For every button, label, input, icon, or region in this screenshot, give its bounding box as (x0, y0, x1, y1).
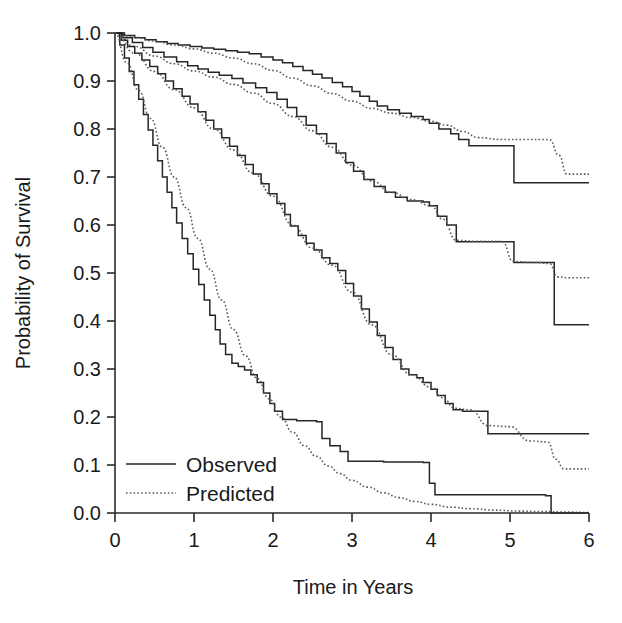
curve-group-2-predicted (115, 33, 589, 278)
y-tick-label-0.0: 0.0 (73, 502, 101, 524)
axes-layer (115, 33, 589, 513)
curve-group-1-predicted (115, 33, 589, 174)
y-tick-label-0.8: 0.8 (73, 118, 101, 140)
y-tick-label-0.4: 0.4 (73, 310, 101, 332)
legend-label-predicted: Predicted (186, 482, 275, 505)
x-tick-label-5: 5 (504, 529, 515, 551)
y-tick-label-1.0: 1.0 (73, 22, 101, 44)
x-tick-label-1: 1 (188, 529, 199, 551)
legend-label-observed: Observed (186, 453, 277, 476)
curves-layer (115, 33, 589, 513)
curve-group-2-observed (115, 33, 589, 325)
curve-group-3-observed (115, 33, 589, 434)
x-tick-label-0: 0 (109, 529, 120, 551)
y-tick-label-0.7: 0.7 (73, 166, 101, 188)
y-tick-label-0.6: 0.6 (73, 214, 101, 236)
y-tick-label-0.2: 0.2 (73, 406, 101, 428)
legend-layer: Observed Predicted (126, 453, 277, 505)
x-tick-label-3: 3 (346, 529, 357, 551)
curve-group-3-predicted (115, 33, 589, 469)
y-tick-label-0.9: 0.9 (73, 70, 101, 92)
y-axis-title: Probability of Survival (12, 177, 34, 369)
x-tick-label-4: 4 (425, 529, 436, 551)
curve-group-4-predicted (115, 33, 589, 513)
x-tick-label-2: 2 (267, 529, 278, 551)
x-tick-label-6: 6 (583, 529, 594, 551)
ticks-layer: 0.00.10.20.30.40.50.60.70.80.91.00123456 (73, 22, 594, 551)
y-tick-label-0.3: 0.3 (73, 358, 101, 380)
y-tick-label-0.5: 0.5 (73, 262, 101, 284)
x-axis-title: Time in Years (293, 576, 413, 598)
curve-group-4-observed (115, 33, 589, 513)
y-tick-label-0.1: 0.1 (73, 454, 101, 476)
curve-group-1-observed (115, 33, 589, 183)
survival-plot-svg: 0.00.10.20.30.40.50.60.70.80.91.00123456… (0, 0, 622, 623)
survival-curve-figure: 0.00.10.20.30.40.50.60.70.80.91.00123456… (0, 0, 622, 623)
